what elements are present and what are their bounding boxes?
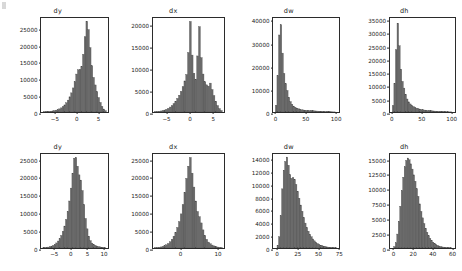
histogram-bar — [62, 107, 64, 112]
histogram-bar — [198, 27, 200, 112]
histogram-figure: dy 0500010000150002000025000−505 dx 0500… — [0, 0, 462, 271]
histogram-bar — [174, 101, 176, 112]
y-axis-tick-mark — [387, 61, 389, 62]
y-axis-tick-mark — [271, 160, 273, 161]
panel-title: dw — [231, 143, 347, 151]
histogram-bar — [189, 157, 191, 248]
y-axis-tick-label: 15000 — [20, 60, 38, 66]
histogram-bar — [421, 217, 422, 247]
y-axis-tick-mark — [387, 190, 389, 191]
histogram-bar — [180, 213, 182, 247]
histogram-bar — [62, 231, 64, 248]
histogram-bar — [314, 111, 316, 112]
y-axis-tick-label: 0 — [382, 111, 386, 117]
x-axis-tick-label: 10 — [214, 251, 221, 257]
histogram-bar — [88, 30, 90, 112]
panel-title: dy — [0, 143, 116, 151]
x-axis-tick-mark — [339, 248, 340, 250]
axes-bottom-dy: 0500010000150002000025000−50510 — [40, 153, 109, 249]
y-axis-tick-label: 25000 — [368, 45, 386, 51]
x-axis-tick-mark — [305, 112, 306, 114]
histogram-bar — [163, 110, 165, 112]
y-axis-tick-label: 5000 — [135, 89, 149, 95]
axes-top-dy: 0500010000150002000025000−505 — [40, 17, 109, 113]
histogram-bars — [273, 154, 339, 248]
histogram-bar — [306, 227, 308, 248]
x-axis-tick-label: 60 — [449, 251, 456, 257]
histogram-bar — [301, 211, 303, 248]
y-axis-tick-mark — [150, 196, 152, 197]
histogram-bar — [165, 244, 167, 247]
y-axis-tick-label: 15000 — [20, 193, 38, 199]
histogram-bar — [439, 246, 440, 248]
panel-top-dx: dx 05000100001500020000−505 — [116, 0, 232, 136]
histogram-bar — [205, 85, 207, 112]
histogram-bar — [85, 218, 87, 248]
panel-title: dy — [0, 7, 116, 15]
histogram-bar — [299, 109, 301, 112]
histogram-bar — [323, 246, 325, 248]
histogram-bar — [86, 228, 88, 247]
histogram-bar — [288, 165, 290, 248]
histogram-bar — [191, 173, 193, 248]
y-axis-tick-label: 12500 — [368, 172, 386, 178]
histogram-bar — [46, 247, 48, 248]
histogram-bar — [414, 107, 416, 112]
histogram-bar — [433, 243, 434, 248]
x-axis-tick-mark — [318, 248, 319, 250]
histogram-bar — [162, 246, 164, 248]
x-axis-tick-mark — [218, 248, 219, 250]
x-axis-tick-label: 10 — [100, 251, 107, 257]
histogram-bar — [83, 54, 85, 112]
y-axis-tick-mark — [387, 234, 389, 235]
histogram-bar — [83, 204, 85, 248]
histogram-bar — [169, 107, 171, 112]
histogram-bar — [413, 174, 414, 247]
histogram-bar — [49, 111, 51, 112]
y-axis-tick-label: 0 — [145, 111, 149, 117]
y-axis-tick-mark — [387, 205, 389, 206]
histogram-bars — [390, 154, 455, 248]
x-axis-tick-label: 75 — [336, 251, 343, 257]
x-axis-tick-mark — [180, 248, 181, 250]
y-axis-tick-mark — [271, 198, 273, 199]
panel-top-dw: dw 010000200003000040000050100 — [231, 0, 347, 136]
histogram-bar — [426, 110, 428, 112]
y-axis-tick-mark — [39, 114, 41, 115]
y-axis-tick-mark — [39, 160, 41, 161]
histogram-bar — [309, 111, 311, 112]
histogram-bar — [308, 231, 310, 248]
y-axis-tick-mark — [387, 114, 389, 115]
y-axis-tick-mark — [39, 63, 41, 64]
y-axis-tick-label: 6000 — [255, 208, 269, 214]
histogram-bar — [297, 191, 299, 248]
histogram-bar — [393, 83, 395, 112]
x-axis-tick-label: 5 — [97, 116, 101, 122]
y-axis-tick-label: 5000 — [23, 94, 37, 100]
histogram-bar — [91, 243, 93, 248]
y-axis-tick-label: 20000 — [131, 23, 149, 29]
histogram-bar — [209, 83, 211, 112]
y-axis-tick-mark — [150, 214, 152, 215]
histogram-bar — [69, 201, 71, 248]
histogram-bar — [282, 53, 284, 112]
histogram-bar — [301, 110, 303, 112]
histogram-bar — [94, 85, 96, 112]
histogram-bar — [56, 242, 58, 247]
histogram-bar — [329, 247, 331, 248]
histogram-bar — [398, 46, 400, 112]
y-axis-tick-mark — [150, 70, 152, 71]
histogram-bar — [419, 203, 420, 247]
y-axis-tick-mark — [271, 224, 273, 225]
histogram-bar — [65, 219, 67, 248]
histogram-bar — [398, 221, 399, 248]
histogram-bar — [86, 21, 88, 112]
histogram-bar — [425, 110, 427, 112]
y-axis-tick-mark — [387, 47, 389, 48]
histogram-bar — [156, 111, 158, 112]
histogram-bars — [153, 18, 224, 112]
x-axis-tick-mark — [275, 112, 276, 114]
y-axis-tick-label: 7500 — [372, 202, 386, 208]
x-axis-tick-mark — [213, 112, 214, 114]
y-axis-tick-label: 10000 — [368, 84, 386, 90]
